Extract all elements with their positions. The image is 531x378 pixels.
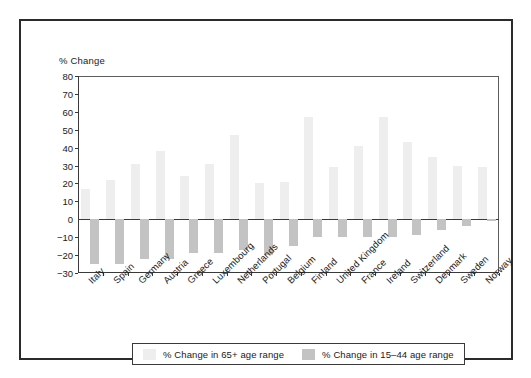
bar-15-44 bbox=[338, 219, 347, 237]
bar-65plus bbox=[354, 146, 363, 219]
bar-15-44 bbox=[462, 219, 471, 226]
y-tick-mark bbox=[75, 237, 78, 238]
bar-15-44 bbox=[412, 219, 421, 235]
plot-right-border bbox=[498, 76, 499, 273]
y-tick-mark bbox=[75, 255, 78, 256]
y-axis-caption: % Change bbox=[59, 55, 105, 66]
y-tick-label: 60 bbox=[43, 106, 78, 117]
y-tick-mark bbox=[75, 112, 78, 113]
chart-figure-frame: % Change 80706050403020100−10−20−30 Ital… bbox=[19, 19, 513, 360]
bar-65plus bbox=[180, 176, 189, 219]
y-tick-label: −20 bbox=[43, 250, 78, 261]
bar-65plus bbox=[329, 167, 338, 219]
bar-15-44 bbox=[115, 219, 124, 264]
bar-65plus bbox=[478, 167, 487, 219]
y-tick-mark bbox=[75, 148, 78, 149]
bar-65plus bbox=[453, 166, 462, 220]
bar-65plus bbox=[106, 180, 115, 219]
bar-65plus bbox=[304, 117, 313, 219]
legend-label-65plus: % Change in 65+ age range bbox=[163, 349, 284, 360]
bar-15-44 bbox=[90, 219, 99, 264]
bar-15-44 bbox=[487, 219, 496, 221]
x-axis-labels: ItalySpainGermanyAustriaGreeceLuxembourg… bbox=[78, 278, 508, 338]
legend-swatch-65plus bbox=[143, 349, 156, 360]
y-tick-label: 20 bbox=[43, 178, 78, 189]
y-tick-label: −10 bbox=[43, 232, 78, 243]
bar-65plus bbox=[131, 164, 140, 220]
y-tick-label: 30 bbox=[43, 160, 78, 171]
y-tick-label: 0 bbox=[43, 214, 78, 225]
y-tick-mark bbox=[75, 94, 78, 95]
bar-65plus bbox=[255, 183, 264, 219]
y-tick-label: −30 bbox=[43, 268, 78, 279]
y-tick-label: 40 bbox=[43, 142, 78, 153]
bar-15-44 bbox=[214, 219, 223, 253]
bar-65plus bbox=[230, 135, 239, 219]
bar-15-44 bbox=[437, 219, 446, 230]
y-tick-mark bbox=[75, 273, 78, 274]
y-tick-mark bbox=[75, 201, 78, 202]
legend-label-15-44: % Change in 15–44 age range bbox=[322, 349, 454, 360]
legend-swatch-15-44 bbox=[302, 349, 315, 360]
y-tick-label: 10 bbox=[43, 196, 78, 207]
bar-65plus bbox=[403, 142, 412, 219]
y-tick-mark bbox=[75, 130, 78, 131]
bar-15-44 bbox=[289, 219, 298, 246]
plot-top-border bbox=[78, 76, 499, 77]
bar-15-44 bbox=[313, 219, 322, 237]
bar-65plus bbox=[428, 157, 437, 220]
y-tick-mark bbox=[75, 166, 78, 167]
legend-item-15-44: % Change in 15–44 age range bbox=[302, 349, 454, 360]
bar-15-44 bbox=[140, 219, 149, 258]
y-tick-mark bbox=[75, 76, 78, 77]
legend-item-65plus: % Change in 65+ age range bbox=[143, 349, 284, 360]
bar-65plus bbox=[280, 182, 289, 220]
y-tick-label: 80 bbox=[43, 71, 78, 82]
page-canvas: % Change 80706050403020100−10−20−30 Ital… bbox=[0, 0, 531, 378]
bar-15-44 bbox=[363, 219, 372, 237]
y-axis-line bbox=[78, 76, 79, 273]
plot-area: 80706050403020100−10−20−30 bbox=[78, 76, 499, 273]
bar-65plus bbox=[81, 189, 90, 219]
bar-65plus bbox=[379, 117, 388, 219]
bar-15-44 bbox=[189, 219, 198, 253]
chart-legend: % Change in 65+ age range % Change in 15… bbox=[132, 343, 465, 365]
bar-65plus bbox=[205, 164, 214, 220]
y-tick-mark bbox=[75, 183, 78, 184]
bar-65plus bbox=[156, 151, 165, 219]
y-tick-label: 70 bbox=[43, 88, 78, 99]
y-tick-label: 50 bbox=[43, 124, 78, 135]
